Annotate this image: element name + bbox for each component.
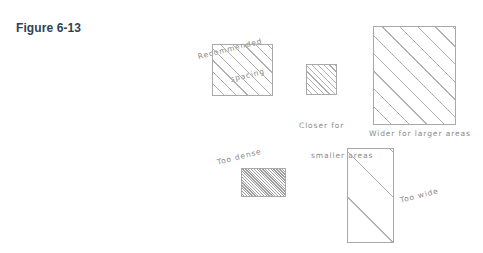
- figure-label: Figure 6-13: [16, 21, 81, 35]
- annotation-too-wide: Too wide: [399, 186, 440, 205]
- recommended-spacing-square: [212, 44, 273, 96]
- figure-canvas: Figure 6-13 Recommended spacing Closer f…: [0, 0, 483, 253]
- wider-large-rectangle: [373, 26, 456, 125]
- annotation-closer-line1: Closer for: [299, 121, 373, 131]
- annotation-too-dense: Too dense: [216, 147, 263, 168]
- too-dense-rectangle: [241, 168, 286, 197]
- closer-small-square: [306, 64, 337, 95]
- too-wide-rectangle: [347, 148, 394, 243]
- annotation-wider-larger-areas: Wider for larger areas: [369, 129, 471, 139]
